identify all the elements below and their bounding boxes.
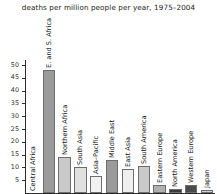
bar-category-label: E. and S. Africa xyxy=(45,18,52,68)
bar-rect[interactable] xyxy=(74,167,86,193)
bar-rect[interactable] xyxy=(106,160,118,193)
y-tick-label: 45 xyxy=(11,73,19,81)
y-tick-label: 40 xyxy=(11,86,19,94)
y-tick-mark xyxy=(22,65,25,66)
bar-rect[interactable] xyxy=(43,70,55,193)
y-tick-label: 15 xyxy=(11,150,19,158)
bar-category-label: East Asia xyxy=(124,137,131,167)
bar-category-label: Central Africa xyxy=(29,146,36,191)
plot-area: 5101520253035404550 Central AfricaE. and… xyxy=(25,18,215,194)
y-tick-mark xyxy=(22,142,25,143)
bar-rect[interactable] xyxy=(169,189,181,193)
bar-rect[interactable] xyxy=(138,166,150,193)
bar-category-label: Middle East xyxy=(109,120,116,158)
y-tick-mark xyxy=(22,155,25,156)
bar-category-label: South Asia xyxy=(77,130,84,165)
bar-rect[interactable] xyxy=(90,176,102,193)
bar-rect[interactable] xyxy=(185,185,197,193)
bar-category-label: Western Europe xyxy=(188,131,195,183)
y-tick-mark xyxy=(22,103,25,104)
y-tick-label: 30 xyxy=(11,112,19,120)
chart-title: deaths per million people per year, 1975… xyxy=(0,3,217,12)
bar-category-label: South America xyxy=(140,116,147,164)
bar-category-label: Japan xyxy=(204,170,211,188)
x-axis-line xyxy=(25,193,215,194)
bar-chart: deaths per million people per year, 1975… xyxy=(0,0,217,194)
y-axis-line xyxy=(25,60,26,194)
y-tick-label: 5 xyxy=(15,176,19,184)
bar-rect[interactable] xyxy=(58,157,70,193)
bar-category-label: Eastern Europe xyxy=(156,133,163,183)
bar-category-label: North America xyxy=(172,139,179,187)
y-tick-label: 25 xyxy=(11,125,19,133)
y-tick-mark xyxy=(22,129,25,130)
bar-rect[interactable] xyxy=(122,169,134,193)
y-tick-mark xyxy=(22,91,25,92)
y-tick-label: 50 xyxy=(11,61,19,69)
bar-rect[interactable] xyxy=(201,190,213,193)
y-tick-mark xyxy=(22,167,25,168)
bar-category-label: Northern Africa xyxy=(61,105,68,155)
y-tick-mark xyxy=(22,78,25,79)
y-tick-label: 10 xyxy=(11,163,19,171)
y-tick-mark xyxy=(22,116,25,117)
bar-category-label: Asia–Pacific xyxy=(93,136,100,174)
bar-rect[interactable] xyxy=(153,185,165,193)
y-tick-mark xyxy=(22,180,25,181)
y-tick-label: 35 xyxy=(11,99,19,107)
y-tick-label: 20 xyxy=(11,137,19,145)
